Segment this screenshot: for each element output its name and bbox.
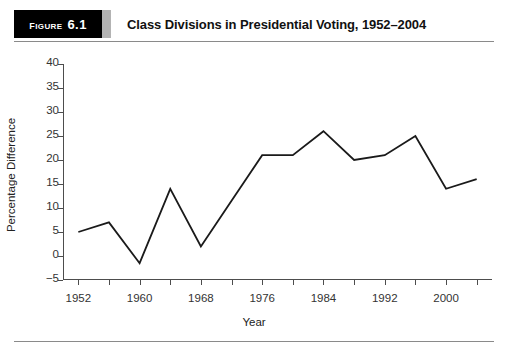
y-tick-label: 15: [46, 176, 59, 188]
x-tick-mark-1960: [140, 280, 141, 285]
series-line-percentage-difference: [63, 64, 492, 280]
figure-container: Figure 6.1 Class Divisions in Presidenti…: [0, 0, 508, 350]
x-tick-label-1984: 1984: [311, 292, 337, 304]
figure-title: Class Divisions in Presidential Voting, …: [111, 10, 494, 38]
y-tick-label: 5: [53, 224, 59, 236]
y-tick-label: 40: [46, 56, 59, 68]
x-tick-label-1976: 1976: [249, 292, 275, 304]
y-axis-title-text: Percentage Difference: [5, 118, 17, 232]
figure-number-badge: Figure 6.1: [14, 10, 102, 38]
x-tick-mark-1956: [109, 280, 110, 285]
y-tick-label: 10: [46, 200, 59, 212]
x-tick-label-1960: 1960: [127, 292, 153, 304]
x-tick-label-1968: 1968: [188, 292, 214, 304]
y-tick-label: 20: [46, 152, 59, 164]
x-tick-label-1952: 1952: [66, 292, 92, 304]
chart-plot-area: −505101520253035401952196019681976198419…: [63, 64, 492, 280]
x-tick-mark-1976: [262, 280, 263, 285]
x-tick-mark-2004: [477, 280, 478, 285]
x-tick-label-2000: 2000: [433, 292, 459, 304]
x-tick-mark-1952: [78, 280, 79, 285]
x-tick-label-1992: 1992: [372, 292, 398, 304]
y-axis-title: Percentage Difference: [2, 80, 20, 270]
x-tick-mark-1996: [415, 280, 416, 285]
series-polyline: [78, 131, 476, 263]
y-tick-label: 25: [46, 128, 59, 140]
x-tick-mark-1980: [293, 280, 294, 285]
header-divider: [14, 41, 494, 42]
x-tick-mark-1988: [354, 280, 355, 285]
y-tick-label: 30: [46, 104, 59, 116]
y-tick-label: 35: [46, 80, 59, 92]
figure-header: Figure 6.1 Class Divisions in Presidenti…: [14, 10, 494, 38]
y-tick-label: −5: [46, 272, 59, 284]
x-tick-mark-1972: [232, 280, 233, 285]
x-tick-mark-1992: [385, 280, 386, 285]
x-tick-mark-1968: [201, 280, 202, 285]
x-axis-title: Year: [0, 316, 508, 328]
x-tick-mark-1964: [170, 280, 171, 285]
footer-divider: [14, 341, 494, 342]
figure-badge-tab: [102, 10, 111, 38]
x-tick-mark-1984: [323, 280, 324, 285]
x-tick-mark-2000: [446, 280, 447, 285]
figure-badge-word: Figure: [29, 17, 62, 32]
figure-badge-number: 6.1: [67, 17, 86, 32]
y-tick-label: 0: [53, 248, 59, 260]
